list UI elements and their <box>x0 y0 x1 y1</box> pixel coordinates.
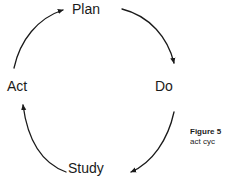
cycle-node-act: Act <box>7 78 27 94</box>
figure-caption-line-1: Figure 5 <box>190 127 226 137</box>
arrow-study-to-act <box>23 105 66 172</box>
cycle-node-study: Study <box>68 160 104 176</box>
figure-caption-line-2: act cyc <box>190 137 226 147</box>
cycle-node-plan: Plan <box>72 1 100 17</box>
cycle-node-do: Do <box>155 78 173 94</box>
arrow-do-to-study <box>131 112 174 172</box>
cycle-diagram <box>0 0 226 183</box>
figure-caption: Figure 5 act cyc <box>190 127 226 147</box>
figure-canvas: Plan Do Study Act Figure 5 act cyc <box>0 0 226 183</box>
arrow-act-to-plan <box>14 10 63 68</box>
arrow-plan-to-do <box>122 9 174 63</box>
